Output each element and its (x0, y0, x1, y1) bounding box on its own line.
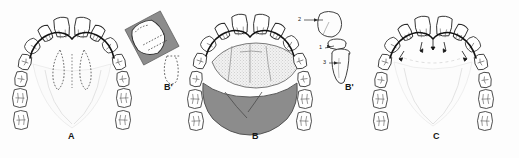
callout-number-1: 1 (319, 45, 322, 51)
panel-label-c: C (433, 132, 440, 141)
panel-label-a: A (68, 132, 75, 141)
panel-label-b: B (252, 132, 259, 141)
callout-number-2: 2 (298, 17, 301, 23)
inset-label-b-prime-left: B' (164, 83, 173, 92)
figure-caption (4, 149, 124, 158)
inset-b-prime-left-illustration (125, 11, 179, 65)
figure-root: A B C B' B' 2 1 3 (0, 0, 519, 158)
panel-a-illustration (12, 16, 132, 129)
callout-number-3: 3 (323, 60, 326, 66)
panel-c-illustration (372, 15, 494, 130)
inset-label-b-prime-right: B' (345, 83, 354, 92)
inset-b-prime-right-illustration (304, 12, 350, 84)
figure-illustration (0, 0, 519, 158)
inset-b-prime-left-root (164, 56, 180, 84)
panel-b-illustration (187, 13, 313, 135)
